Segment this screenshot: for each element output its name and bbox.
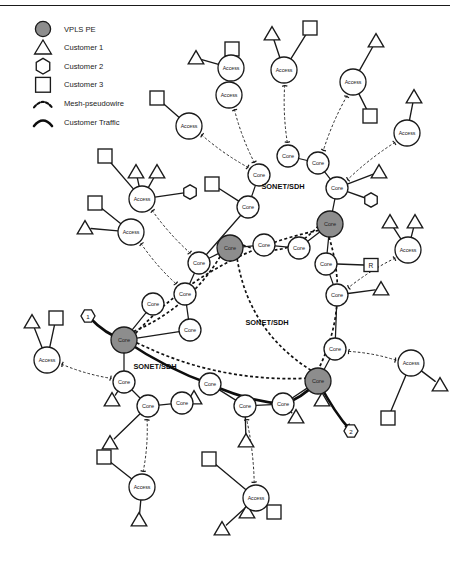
access-node[interactable]: Access xyxy=(243,485,269,511)
customer-1-triangle-icon xyxy=(238,434,254,447)
core-node[interactable]: Core xyxy=(171,392,193,414)
core-node[interactable]: Core xyxy=(324,338,346,360)
customer-3-square-icon xyxy=(202,452,216,466)
access-node-circle xyxy=(395,237,421,263)
core-node[interactable]: Core xyxy=(277,145,299,167)
core-link xyxy=(209,254,218,259)
core-node[interactable]: Core xyxy=(288,237,310,259)
region-label-sonet-sdh: SONET/SDH xyxy=(245,318,288,327)
pseudowire-hook-icon xyxy=(110,376,111,381)
cpe-access-link xyxy=(245,417,246,435)
access-node-circle xyxy=(118,219,144,245)
vpls-pe-node[interactable]: Core xyxy=(305,368,331,394)
core-node[interactable]: Core xyxy=(174,283,196,305)
access-node-circle xyxy=(218,55,244,81)
access-node[interactable]: Access xyxy=(216,82,242,108)
customer-1-triangle-icon xyxy=(432,378,448,391)
access-node[interactable]: Access xyxy=(271,57,297,83)
marker-router: R xyxy=(364,259,378,272)
customer-1-triangle-icon xyxy=(128,165,144,178)
pseudowire-hook-icon xyxy=(321,149,326,151)
pseudowire-hook-icon xyxy=(144,420,149,421)
access-node[interactable]: Access xyxy=(395,237,421,263)
core-link xyxy=(187,305,189,319)
core-node[interactable]: Core xyxy=(142,293,164,315)
core-node[interactable]: Core xyxy=(188,252,210,274)
pseudowire-hook-icon xyxy=(151,209,155,212)
region-label-layer: SONET/SDHSONET/SDHSONET/SDH xyxy=(133,182,304,371)
traffic-endpoint-label: 2 xyxy=(349,428,353,435)
region-label-sonet-sdh: SONET/SDH xyxy=(133,362,176,371)
core-node[interactable]: Core xyxy=(113,371,135,393)
cpe-access-link xyxy=(214,463,246,490)
access-node-circle xyxy=(398,350,424,376)
legend-label: Customer 1 xyxy=(64,43,103,52)
legend-label: VPLS PE xyxy=(64,25,96,34)
access-node[interactable]: Access xyxy=(176,113,202,139)
access-node[interactable]: Access xyxy=(129,474,155,500)
core-node[interactable]: Core xyxy=(326,177,348,199)
vpls-pe-node[interactable]: Core xyxy=(111,327,137,353)
cpe-access-link xyxy=(217,187,239,201)
pseudowire-hook-icon xyxy=(188,251,192,254)
access-node-circle xyxy=(129,186,155,212)
customer-1-triangle-icon xyxy=(264,27,280,40)
access-node[interactable]: Access xyxy=(398,350,424,376)
legend-item-customer-traffic: Customer Traffic xyxy=(34,118,120,127)
cpe-access-link xyxy=(137,178,139,186)
access-node-circle xyxy=(216,82,242,108)
core-node-circle xyxy=(324,338,346,360)
pseudowire-hook-icon xyxy=(285,142,290,143)
core-node[interactable]: Core xyxy=(179,319,201,341)
core-node[interactable]: Core xyxy=(237,196,259,218)
access-node[interactable]: Access xyxy=(34,347,60,373)
core-node[interactable]: Core xyxy=(326,284,348,306)
core-link xyxy=(325,172,331,179)
core-node[interactable]: Core xyxy=(234,395,256,417)
access-node[interactable]: Access xyxy=(394,120,420,146)
pseudowire-hook-icon xyxy=(282,86,287,87)
core-node-circle xyxy=(326,284,348,306)
core-link xyxy=(332,199,334,211)
access-node[interactable]: Access xyxy=(118,219,144,245)
pseudowire-hook-icon xyxy=(348,285,351,289)
core-node[interactable]: Core xyxy=(253,234,275,256)
core-link xyxy=(159,404,171,405)
vpls-pe-node-circle xyxy=(317,211,343,237)
core-link xyxy=(324,359,330,370)
access-node[interactable]: Access xyxy=(218,55,244,81)
core-node[interactable]: Core xyxy=(199,373,221,395)
access-node-circle xyxy=(394,120,420,146)
legend-label: Customer Traffic xyxy=(64,118,120,127)
core-node-circle xyxy=(288,237,310,259)
vpls-pe-node[interactable]: Core xyxy=(317,211,343,237)
customer-1-triangle-icon xyxy=(35,40,52,54)
customer-1-triangle-icon xyxy=(382,215,398,228)
access-node[interactable]: Access xyxy=(340,69,366,95)
cpe-access-link xyxy=(348,290,375,294)
legend-label: Customer 2 xyxy=(64,62,103,71)
core-node-circle xyxy=(237,196,259,218)
customer-3-square-icon xyxy=(381,411,395,425)
core-node-circle xyxy=(171,392,193,414)
vpls-pe-node[interactable]: Core xyxy=(217,235,243,261)
core-node[interactable]: Core xyxy=(137,395,159,417)
core-node[interactable]: Core xyxy=(272,393,294,415)
access-node[interactable]: Access xyxy=(129,186,155,212)
core-node-circle xyxy=(307,152,329,174)
customer-1-triangle-icon xyxy=(149,165,165,178)
core-link xyxy=(330,274,334,284)
customer-3-square-icon xyxy=(88,196,102,210)
mesh-pseudowire-link xyxy=(284,85,287,143)
core-node-circle xyxy=(174,283,196,305)
core-node[interactable]: Core xyxy=(307,152,329,174)
core-link xyxy=(132,390,140,398)
legend-item-customer-1: Customer 1 xyxy=(35,40,104,54)
core-node-circle xyxy=(179,319,201,341)
mesh-pseudowire-link xyxy=(141,243,177,284)
vpls-pe-node-circle xyxy=(111,327,137,353)
core-node[interactable]: Core xyxy=(315,253,337,275)
legend-item-vpls-pe: VPLS PE xyxy=(35,21,95,36)
core-node-circle xyxy=(277,145,299,167)
cpe-access-link xyxy=(114,414,140,439)
